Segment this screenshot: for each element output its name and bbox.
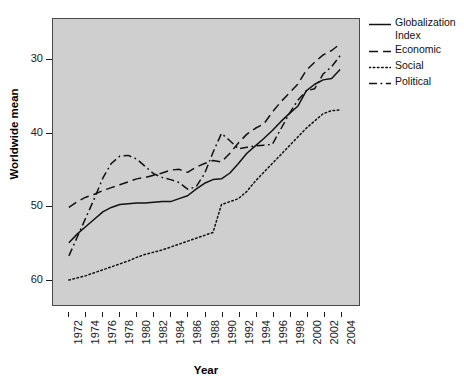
x-tick-mark	[239, 312, 240, 317]
x-tick-label: 1984	[175, 320, 186, 344]
x-tick-label: 1974	[90, 320, 101, 344]
legend-label: Social	[395, 59, 424, 72]
series-line-political	[69, 56, 340, 256]
x-tick-label: 1996	[278, 320, 289, 344]
y-tick-label: 30	[31, 53, 43, 64]
legend-item: Political	[369, 75, 464, 89]
x-tick-label: 1976	[107, 320, 118, 344]
x-tick-label: 1986	[192, 320, 203, 344]
x-tick-label: 1978	[124, 320, 135, 344]
x-tick-mark	[341, 312, 342, 317]
x-tick-mark	[273, 312, 274, 317]
x-tick-mark	[170, 312, 171, 317]
x-tick-mark	[153, 312, 154, 317]
x-tick-label: 1994	[261, 320, 272, 344]
legend-item: Social	[369, 59, 464, 73]
plot-panel	[52, 18, 360, 306]
x-tick-label: 2000	[312, 320, 323, 344]
legend-key-solid	[369, 17, 391, 30]
x-tick-mark	[85, 312, 86, 317]
y-tick-label: 50	[31, 200, 43, 211]
x-tick-label: 1988	[210, 320, 221, 344]
legend-label: Globalization Index	[395, 16, 456, 41]
x-tick-label: 2004	[346, 320, 357, 344]
x-tick-mark	[68, 312, 69, 317]
x-tick-label: 1998	[295, 320, 306, 344]
x-tick-mark	[119, 312, 120, 317]
series-line-globalization-index	[69, 70, 340, 243]
x-tick-label: 1990	[227, 320, 238, 344]
series-line-social	[69, 110, 340, 280]
chart-figure: Worldwide mean 60504030 1972197419761978…	[0, 0, 464, 385]
x-tick-mark	[102, 312, 103, 317]
y-axis-title: Worldwide mean	[8, 74, 20, 194]
x-tick-label: 1992	[244, 320, 255, 344]
y-tick-label: 60	[31, 274, 43, 285]
x-tick-label: 1982	[158, 320, 169, 344]
x-tick-mark	[256, 312, 257, 317]
legend-item: Economic	[369, 43, 464, 57]
x-tick-mark	[136, 312, 137, 317]
series-canvas	[53, 19, 359, 305]
x-tick-mark	[307, 312, 308, 317]
x-tick-label: 1980	[141, 320, 152, 344]
y-tick-label: 40	[31, 127, 43, 138]
x-axis: 1972197419761978198019821984198619881990…	[0, 306, 464, 385]
x-tick-mark	[324, 312, 325, 317]
legend-item: Globalization Index	[369, 16, 464, 41]
x-tick-mark	[222, 312, 223, 317]
legend-label: Political	[395, 75, 431, 88]
x-axis-title: Year	[52, 364, 360, 376]
legend-label: Economic	[395, 43, 441, 56]
legend-key-dotted	[369, 60, 391, 73]
x-tick-mark	[290, 312, 291, 317]
x-tick-label: 1972	[73, 320, 84, 344]
legend-key-dashed	[369, 44, 391, 57]
legend-key-dashdot	[369, 76, 391, 89]
x-tick-mark	[205, 312, 206, 317]
x-tick-label: 2002	[329, 320, 340, 344]
chart-legend: Globalization IndexEconomicSocialPolitic…	[369, 16, 464, 91]
x-tick-mark	[187, 312, 188, 317]
